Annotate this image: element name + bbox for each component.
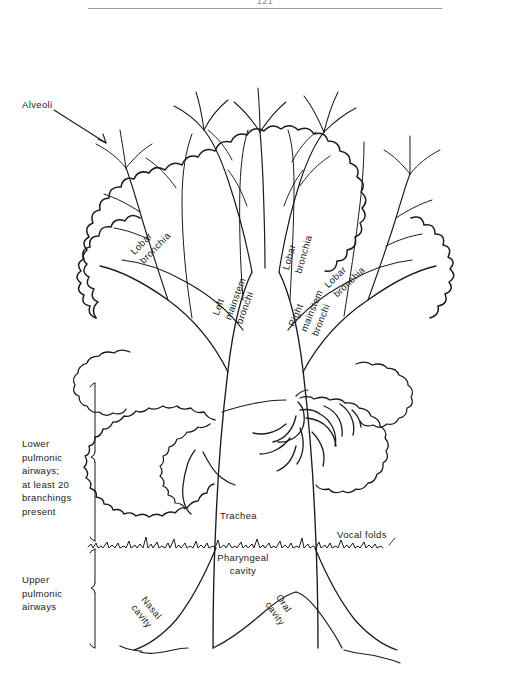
alveolar-cluster-mid-left [74, 350, 130, 415]
lobar-branch-center-mid [260, 132, 265, 268]
sub-branch-ur-3 [384, 150, 410, 174]
sub-branch-ul-3 [126, 144, 152, 168]
alveolar-cluster-lower-right [253, 397, 388, 493]
label-upper-pulmonic-airways: Upper pulmonic airways [22, 573, 62, 614]
bracket-upper-airways [90, 549, 95, 648]
canopy-vein-4 [292, 132, 316, 162]
alveolar-cluster-lower-left [84, 406, 215, 517]
label-alveoli: Alveoli [22, 99, 52, 112]
sub-branch-4 [234, 102, 260, 132]
branch-stem-lower-left [222, 400, 286, 412]
label-vocal-folds: Vocal folds [337, 529, 387, 542]
canopy-vein-1 [146, 158, 176, 188]
sub-branch-ur-1 [410, 150, 440, 174]
sub-branch-ur-5 [386, 234, 422, 246]
alveolar-cluster-lower-left-inner [160, 424, 210, 509]
left-mainstem-bronchus-outer [100, 266, 228, 372]
sub-branch-ul-1 [96, 144, 126, 168]
sub-branch-2 [196, 92, 204, 130]
vocal-folds-leader [389, 538, 395, 545]
alveoli-arrow-line [54, 110, 106, 143]
label-lower-pulmonic-airways: Lower pulmonic airways; at least 20 bran… [22, 437, 71, 518]
figure-page: 121 [0, 0, 530, 691]
lobar-branch-upper-right [368, 174, 410, 300]
trachea-trunk-left [213, 272, 252, 648]
alveolar-cluster-ll-tail [183, 450, 195, 514]
canopy-vein-3 [208, 130, 232, 160]
sub-branch-3 [204, 100, 228, 130]
root-ridge-center-right [296, 592, 342, 648]
alveolar-cluster-mid-right [356, 362, 412, 427]
label-pharyngeal-cavity: Pharyngeal cavity [213, 552, 273, 577]
sub-branch-5 [258, 88, 260, 132]
bracket-lower-airways [90, 383, 95, 541]
root-base-right [344, 650, 400, 663]
label-trachea: Trachea [220, 510, 257, 523]
sub-branch-9 [324, 108, 356, 132]
sub-branch-7 [304, 96, 324, 132]
root-base-left [140, 648, 188, 653]
sub-branch-1 [174, 106, 204, 130]
canopy-partition-2 [240, 130, 248, 300]
sub-branch-ur-4 [396, 200, 432, 218]
airway-tree-illustration [0, 0, 530, 691]
oral-cavity-outline [315, 548, 397, 650]
